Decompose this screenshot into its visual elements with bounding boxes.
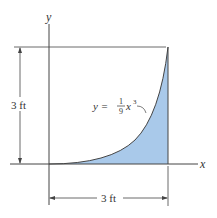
- arrow-up-icon: [18, 47, 22, 53]
- width-dimension-label: 3 ft: [101, 192, 116, 204]
- shaded-area: [49, 47, 168, 164]
- area-diagram: 3 ft 3 ft y x y = 1 9 x 3: [0, 0, 217, 218]
- arrow-right-icon: [162, 196, 168, 200]
- height-dimension-label: 3 ft: [11, 99, 26, 111]
- arrow-left-icon: [49, 196, 55, 200]
- equation-lhs: y =: [92, 100, 108, 112]
- equation-numerator: 1: [119, 97, 123, 106]
- label-leader: [137, 106, 146, 113]
- y-axis-label: y: [45, 10, 52, 24]
- x-axis-label: x: [199, 157, 206, 171]
- arrow-down-icon: [18, 158, 22, 164]
- equation-denominator: 9: [119, 107, 123, 116]
- equation-exponent: 3: [133, 98, 137, 106]
- equation-variable: x: [125, 100, 131, 112]
